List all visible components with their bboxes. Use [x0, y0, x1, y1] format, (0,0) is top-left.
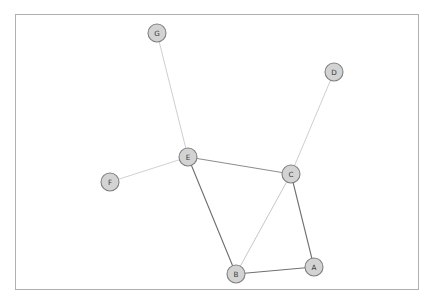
graph-node-b[interactable]: B [227, 265, 245, 283]
graph-node-c[interactable]: C [282, 165, 300, 183]
node-circle-e[interactable] [179, 148, 197, 166]
graph-node-e[interactable]: E [179, 148, 197, 166]
graph-edge-f-e [110, 157, 188, 182]
node-circle-f[interactable] [101, 173, 119, 191]
graph-node-d[interactable]: D [325, 63, 343, 81]
edge-layer [110, 33, 334, 274]
node-circle-g[interactable] [148, 24, 166, 42]
plot-frame [16, 15, 419, 290]
graph-edge-c-d [291, 72, 334, 174]
graph-edge-e-c [188, 157, 291, 174]
graph-node-a[interactable]: A [305, 258, 323, 276]
node-circle-b[interactable] [227, 265, 245, 283]
node-circle-c[interactable] [282, 165, 300, 183]
graph-canvas: ABCDEFG [0, 0, 434, 305]
graph-node-g[interactable]: G [148, 24, 166, 42]
graph-edge-e-b [188, 157, 236, 274]
node-circle-a[interactable] [305, 258, 323, 276]
graph-edge-c-a [291, 174, 314, 267]
graph-edge-b-a [236, 267, 314, 274]
graph-edge-g-e [157, 33, 188, 157]
graph-diagram-page: ABCDEFG [0, 0, 434, 305]
node-circle-d[interactable] [325, 63, 343, 81]
graph-node-f[interactable]: F [101, 173, 119, 191]
node-layer: ABCDEFG [101, 24, 343, 283]
graph-edge-c-b [236, 174, 291, 274]
